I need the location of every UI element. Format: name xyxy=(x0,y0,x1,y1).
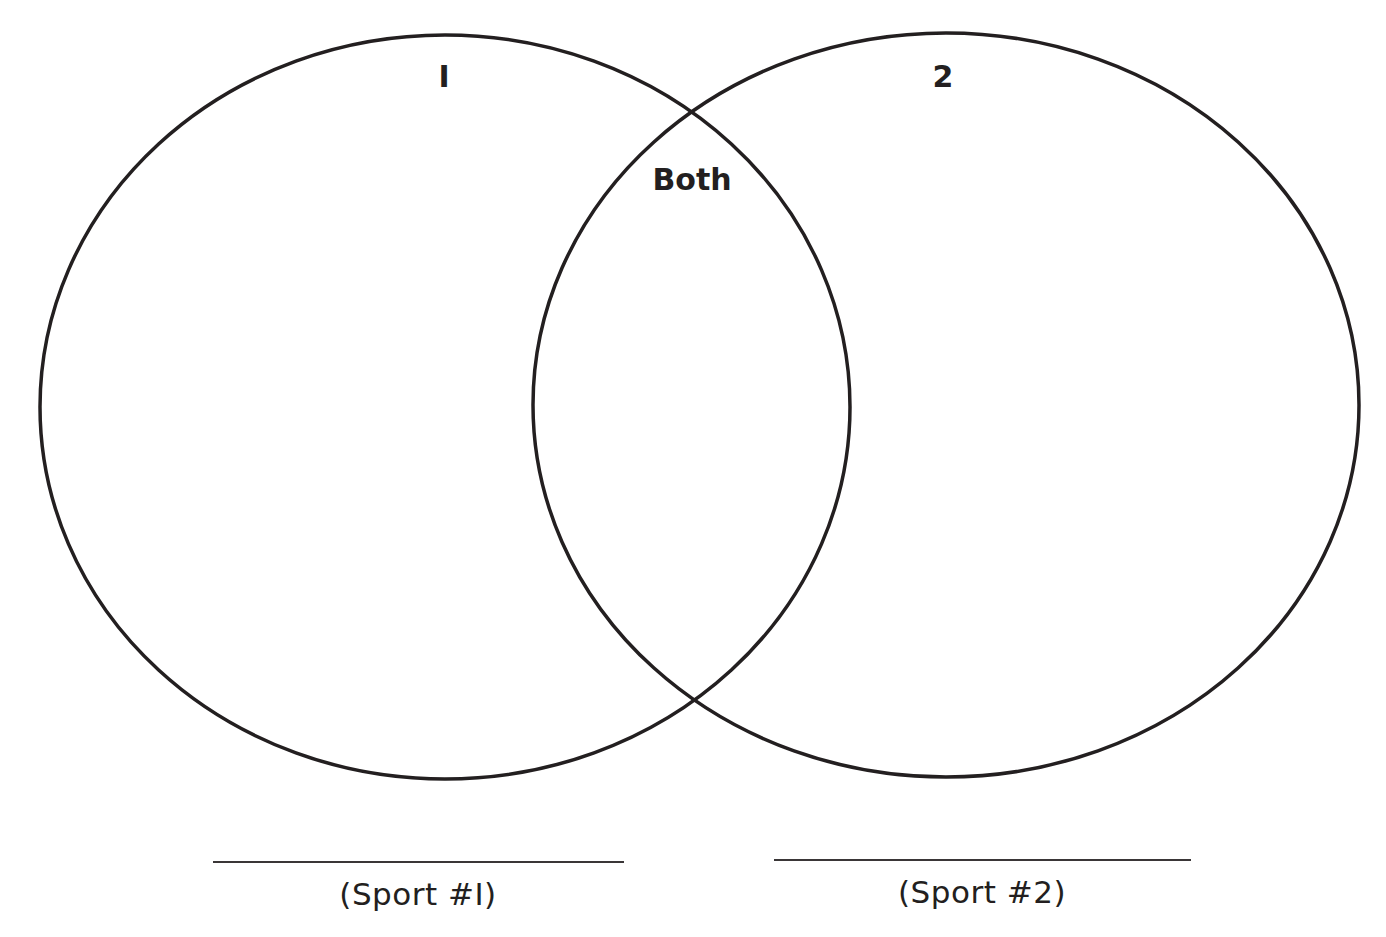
overlap-label: Both xyxy=(652,165,731,195)
sport-2-answer-line[interactable] xyxy=(774,859,1191,861)
sport-1-caption: (Sport #I) xyxy=(339,879,496,910)
circle-1-label: I xyxy=(438,62,449,92)
sport-1-answer-line[interactable] xyxy=(213,861,624,863)
circle-sport-1 xyxy=(40,35,850,779)
sport-2-caption: (Sport #2) xyxy=(898,877,1066,908)
circle-sport-2 xyxy=(533,33,1359,777)
venn-diagram xyxy=(0,0,1386,937)
circle-2-label: 2 xyxy=(933,62,954,92)
